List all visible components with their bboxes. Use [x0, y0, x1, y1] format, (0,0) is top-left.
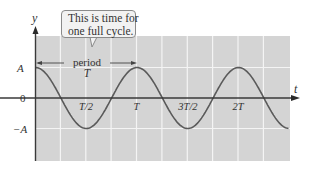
x-tick-half-T: T/2	[79, 101, 94, 112]
sine-wave-diagram: y t A 0 −A T/2 T 3T/2 2T period T	[0, 0, 312, 173]
y-axis-arrow-icon	[33, 26, 39, 34]
x-tick-2T: 2T	[232, 101, 244, 112]
y-tick-zero: 0	[20, 92, 26, 104]
y-tick-A: A	[16, 62, 24, 74]
callout-box: This is time for one full cycle.	[61, 10, 136, 38]
x-tick-three-half-T: 3T/2	[177, 101, 198, 112]
y-tick-neg-A: −A	[13, 123, 27, 135]
y-axis-label: y	[31, 11, 38, 25]
x-axis-label: t	[294, 82, 298, 96]
callout-line-2: one full cycle.	[68, 25, 135, 38]
callout-line-1: This is time for	[68, 12, 135, 25]
